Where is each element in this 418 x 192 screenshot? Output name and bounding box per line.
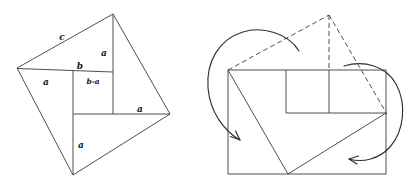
label-leg-bottom-a: a xyxy=(78,140,84,150)
label-hypotenuse-c: c xyxy=(59,32,65,42)
dashed-right-edge xyxy=(329,15,387,114)
chord-horizontal-top xyxy=(17,69,113,73)
label-difference-b-minus-a: b-a xyxy=(86,77,99,86)
geometry-figure: c a b b-a a a a xyxy=(0,0,418,192)
diagonal-right xyxy=(288,113,386,174)
left-diagram: c a b b-a a a a xyxy=(17,14,170,175)
outer-tilted-square xyxy=(17,14,170,175)
label-leg-right-a: a xyxy=(137,104,143,114)
label-base-b: b xyxy=(77,61,83,71)
dashed-left-edge xyxy=(228,15,329,70)
diagonal-left xyxy=(228,70,288,174)
right-diagram xyxy=(208,15,403,174)
label-leg-mid-left-a: a xyxy=(43,77,49,87)
rotate-left-arrow xyxy=(208,30,299,140)
label-leg-top-right-a: a xyxy=(101,48,107,58)
result-rectangle xyxy=(228,70,386,174)
rotate-right-arrow xyxy=(344,64,403,161)
diagram-page: c a b b-a a a a xyxy=(0,0,418,192)
